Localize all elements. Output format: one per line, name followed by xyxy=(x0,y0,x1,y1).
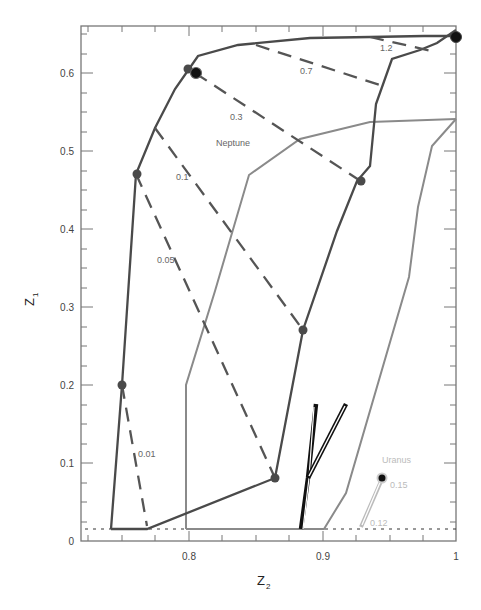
contour-0.1 xyxy=(155,128,303,330)
x-axis-label: Z 2 xyxy=(257,573,271,591)
label-0.7: 0.7 xyxy=(300,66,313,76)
label-0.15: 0.15 xyxy=(390,480,408,490)
marker xyxy=(357,177,366,186)
x-tick-1: 1 xyxy=(453,551,459,562)
label-1.2: 1.2 xyxy=(380,43,393,53)
label-0.3: 0.3 xyxy=(230,112,243,122)
marker xyxy=(271,474,280,483)
label-0.05: 0.05 xyxy=(157,255,175,265)
contour-0.05 xyxy=(136,174,275,478)
svg-text:1: 1 xyxy=(31,292,40,297)
chart: Neptune 0.3 0.7 1.2 0.1 0.05 0.01 Uranus… xyxy=(0,0,481,610)
label-uranus: Uranus xyxy=(382,455,412,465)
svg-text:Z: Z xyxy=(257,573,265,588)
y-tick-0.1: 0.1 xyxy=(60,458,74,469)
y-tick-0.6: 0.6 xyxy=(60,68,74,79)
x-tick-0.8: 0.8 xyxy=(182,551,196,562)
label-0.1: 0.1 xyxy=(176,172,189,182)
label-neptune: Neptune xyxy=(216,138,250,148)
marker xyxy=(299,326,308,335)
contour-0.3 xyxy=(195,73,359,180)
y-tick-0.4: 0.4 xyxy=(60,224,74,235)
label-0.01: 0.01 xyxy=(138,449,156,459)
marker-emphasis xyxy=(451,32,462,43)
label-0.12: 0.12 xyxy=(370,518,388,528)
svg-text:2: 2 xyxy=(266,582,271,591)
svg-text:Z: Z xyxy=(22,298,37,306)
contour-0.7 xyxy=(256,45,383,86)
y-tick-0: 0 xyxy=(68,536,74,547)
y-tick-0.2: 0.2 xyxy=(60,380,74,391)
grey-boundary-left xyxy=(186,119,456,529)
y-tick-0.3: 0.3 xyxy=(60,302,74,313)
x-tick-0.9: 0.9 xyxy=(316,551,330,562)
grey-boundary-right xyxy=(186,119,456,529)
y-axis-label: Z 1 xyxy=(22,292,40,306)
x-ticks xyxy=(88,26,423,541)
marker xyxy=(133,170,142,179)
marker-emphasis xyxy=(191,68,202,79)
uranus-marker xyxy=(378,474,387,483)
y-tick-0.5: 0.5 xyxy=(60,146,74,157)
marker xyxy=(118,381,127,390)
